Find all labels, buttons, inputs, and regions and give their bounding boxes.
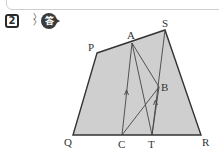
geometry-diagram: P A S Q C T R B xyxy=(0,0,219,155)
label-b: B xyxy=(161,81,168,93)
label-s: S xyxy=(162,17,168,29)
label-a: A xyxy=(127,29,135,41)
label-p: P xyxy=(88,41,94,53)
label-r: R xyxy=(202,136,210,148)
label-c: C xyxy=(118,138,125,150)
label-q: Q xyxy=(64,136,72,148)
label-t: T xyxy=(148,138,155,150)
